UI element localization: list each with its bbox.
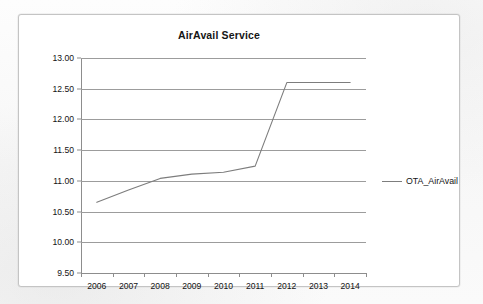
y-axis-tick-label: 11.00 [34,176,74,186]
chart-legend: OTA_AirAvail [382,176,458,186]
y-axis-tick-label: 10.00 [34,237,74,247]
series-line-layer [81,58,366,273]
x-axis-tick-label-2012: 2012 [277,281,296,291]
x-axis-tick-mark [303,273,304,277]
x-axis-tick-mark [81,273,82,277]
legend-line-swatch [382,181,402,182]
x-axis-tick-mark [239,273,240,277]
y-axis-tick-label: 12.00 [34,114,74,124]
y-axis-tick-label: 9.50 [34,268,74,278]
gridline-9-50 [81,273,366,274]
y-axis-tick-label: 10.50 [34,207,74,217]
y-axis-tick-label: 11.50 [34,145,74,155]
legend-entry-label: OTA_AirAvail [406,176,458,186]
x-axis-tick-label-2011: 2011 [246,281,264,291]
x-axis-tick-mark [271,273,272,277]
x-axis-tick-label-2006: 2006 [87,281,106,291]
x-axis-tick-label-2007: 2007 [119,281,138,291]
y-axis-tick-label: 12.50 [34,84,74,94]
x-axis-tick-label-2008: 2008 [151,281,170,291]
x-axis-tick-label-2009: 2009 [182,281,201,291]
chart-frame: AirAvail Service 13.0012.5012.0011.5011.… [18,14,460,287]
x-axis-tick-mark [113,273,114,277]
y-axis-tick-label: 13.00 [34,53,74,63]
x-axis-tick-mark [176,273,177,277]
x-axis-tick-label-2013: 2013 [309,281,328,291]
x-axis-tick-mark [144,273,145,277]
x-axis-tick-label-2010: 2010 [214,281,233,291]
x-axis-tick-mark [208,273,209,277]
chart-title: AirAvail Service [59,29,379,41]
x-axis-tick-label-2014: 2014 [341,281,360,291]
plot-area: 13.0012.5012.0011.5011.0010.5010.009.50 … [81,58,366,273]
series-line-OTA_AirAvail [97,83,350,203]
x-axis-tick-mark [366,273,367,277]
x-axis-tick-mark [334,273,335,277]
